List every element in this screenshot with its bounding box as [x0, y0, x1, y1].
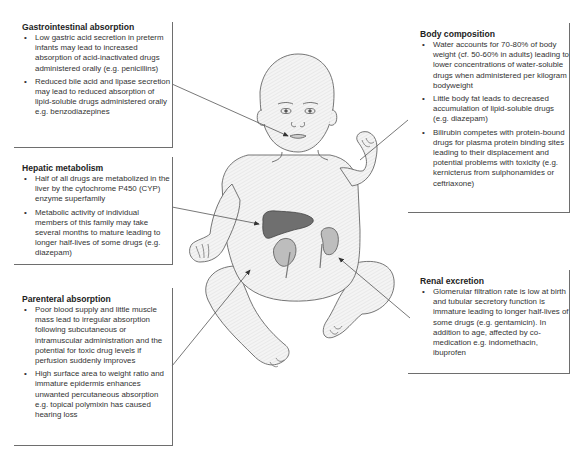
body-composition-list: Water accounts for 70-80% of body weight…: [420, 40, 570, 189]
renal-list: Glomerular filtration rate is low at bir…: [420, 287, 570, 358]
list-item: Half of all drugs are metabolized in the…: [22, 174, 172, 205]
gastrointestinal-box: Gastrointestinal absorption Low gastric …: [14, 22, 173, 148]
renal-box: Renal excretion Glomerular filtration ra…: [408, 270, 570, 374]
list-item: Water accounts for 70-80% of body weight…: [420, 40, 570, 91]
baby-body: [190, 54, 395, 365]
list-item: Bilirubin competes with protein-bound dr…: [420, 128, 570, 189]
parenteral-list: Poor blood supply and little muscle mass…: [22, 305, 172, 420]
body-composition-title: Body composition: [420, 29, 570, 39]
renal-title: Renal excretion: [420, 276, 570, 286]
list-item: High surface area to weight ratio and im…: [22, 369, 172, 420]
hepatic-box: Hepatic metabolism Half of all drugs are…: [14, 157, 173, 265]
list-item: Poor blood supply and little muscle mass…: [22, 305, 172, 366]
gastrointestinal-title: Gastrointestinal absorption: [22, 22, 172, 32]
list-item: Glomerular filtration rate is low at bir…: [420, 287, 570, 358]
list-item: Little body fat leads to decreased accum…: [420, 94, 570, 125]
hepatic-list: Half of all drugs are metabolized in the…: [22, 174, 172, 259]
parenteral-box: Parenteral absorption Poor blood supply …: [14, 288, 173, 446]
list-item: Low gastric acid secretion in preterm in…: [22, 33, 172, 74]
list-item: Metabolic activity of individual members…: [22, 208, 172, 259]
gastrointestinal-list: Low gastric acid secretion in preterm in…: [22, 33, 172, 118]
parenteral-title: Parenteral absorption: [22, 294, 172, 304]
body-composition-box: Body composition Water accounts for 70-8…: [408, 23, 570, 213]
hepatic-title: Hepatic metabolism: [22, 163, 172, 173]
list-item: Reduced bile acid and lipase secretion m…: [22, 77, 172, 118]
